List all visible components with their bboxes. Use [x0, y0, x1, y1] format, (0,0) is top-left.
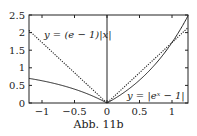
- svg-text:1.5: 1.5: [9, 45, 25, 56]
- annotation-exp: y = |eˣ − 1|: [126, 90, 185, 102]
- annotation-linear: y = (e − 1)|x|: [43, 29, 112, 41]
- svg-text:0: 0: [104, 106, 110, 117]
- svg-text:1: 1: [19, 62, 25, 73]
- svg-text:0: 0: [19, 98, 25, 109]
- svg-text:0.5: 0.5: [9, 80, 25, 91]
- svg-text:−0.5: −0.5: [62, 106, 86, 117]
- svg-text:2.5: 2.5: [9, 10, 25, 21]
- svg-text:1: 1: [169, 106, 175, 117]
- svg-text:0.5: 0.5: [132, 106, 148, 117]
- svg-text:−1: −1: [35, 106, 50, 117]
- figure-caption: Abb. 11b: [0, 118, 197, 131]
- svg-text:2: 2: [19, 27, 25, 38]
- chart: −1−0.500.5100.511.522.5 y = (e − 1)|x| y…: [0, 0, 197, 136]
